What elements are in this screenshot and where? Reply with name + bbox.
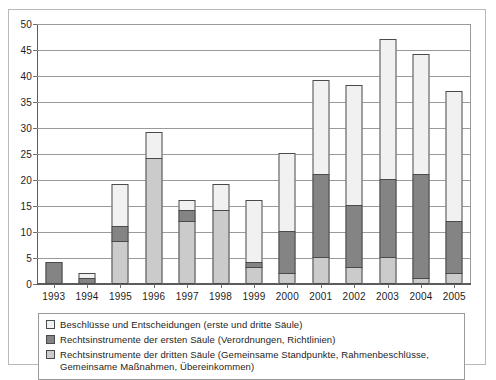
y-tick-label-10: 10 bbox=[20, 227, 32, 238]
bar-segment-first_pillar[interactable] bbox=[312, 174, 329, 258]
x-tick-mark bbox=[54, 284, 55, 288]
legend-item[interactable]: Rechtsinstrumente der dritten Säule (Gem… bbox=[46, 349, 457, 373]
legend-swatch-icon bbox=[46, 350, 55, 359]
bar-group[interactable]: 1998 bbox=[204, 24, 237, 284]
bar-segment-first_pillar[interactable] bbox=[346, 205, 363, 268]
x-tick-mark bbox=[187, 284, 188, 288]
x-tick-mark bbox=[120, 284, 121, 288]
bar-series-container: 1993199419951996199719981999200020012002… bbox=[37, 24, 471, 284]
chart-legend: Beschlüsse und Entscheidungen (erste und… bbox=[38, 313, 465, 380]
bar-segment-decisions[interactable] bbox=[79, 273, 96, 279]
x-tick-mark bbox=[154, 284, 155, 288]
bar-segment-third_pillar[interactable] bbox=[346, 267, 363, 284]
bar-segment-third_pillar[interactable] bbox=[112, 241, 129, 284]
x-tick-label-2002: 2002 bbox=[343, 291, 366, 302]
bar-stack[interactable] bbox=[145, 24, 162, 284]
bar-segment-decisions[interactable] bbox=[446, 91, 463, 222]
x-tick-label-1999: 1999 bbox=[242, 291, 265, 302]
x-tick-label-2000: 2000 bbox=[276, 291, 299, 302]
bar-segment-first_pillar[interactable] bbox=[379, 179, 396, 258]
chart-figure: 05101520253035404550 1993199419951996199… bbox=[8, 9, 486, 365]
bar-segment-third_pillar[interactable] bbox=[212, 210, 229, 284]
bar-stack[interactable] bbox=[45, 24, 62, 284]
legend-label: Rechtsinstrumente der ersten Säule (Vero… bbox=[60, 334, 336, 346]
x-tick-label-1995: 1995 bbox=[109, 291, 132, 302]
bar-segment-third_pillar[interactable] bbox=[179, 221, 196, 284]
y-tick-label-40: 40 bbox=[20, 71, 32, 82]
x-tick-mark bbox=[287, 284, 288, 288]
y-tick-label-25: 25 bbox=[20, 149, 32, 160]
bar-segment-decisions[interactable] bbox=[379, 39, 396, 180]
bar-segment-third_pillar[interactable] bbox=[312, 257, 329, 284]
bar-group[interactable]: 2002 bbox=[337, 24, 370, 284]
y-tick-label-5: 5 bbox=[26, 253, 32, 264]
x-tick-mark bbox=[454, 284, 455, 288]
bar-stack[interactable] bbox=[379, 24, 396, 284]
bar-segment-first_pillar[interactable] bbox=[45, 262, 62, 284]
x-tick-label-2005: 2005 bbox=[443, 291, 466, 302]
bar-segment-first_pillar[interactable] bbox=[112, 226, 129, 243]
bar-segment-first_pillar[interactable] bbox=[179, 210, 196, 221]
x-tick-mark bbox=[321, 284, 322, 288]
x-tick-label-2003: 2003 bbox=[376, 291, 399, 302]
bar-group[interactable]: 2000 bbox=[271, 24, 304, 284]
bar-segment-decisions[interactable] bbox=[179, 200, 196, 211]
bar-stack[interactable] bbox=[279, 24, 296, 284]
bar-group[interactable]: 2001 bbox=[304, 24, 337, 284]
x-tick-label-1997: 1997 bbox=[176, 291, 199, 302]
bar-stack[interactable] bbox=[212, 24, 229, 284]
bar-segment-decisions[interactable] bbox=[346, 85, 363, 206]
bar-stack[interactable] bbox=[79, 24, 96, 284]
x-tick-label-1994: 1994 bbox=[76, 291, 99, 302]
bar-segment-third_pillar[interactable] bbox=[279, 273, 296, 284]
bar-segment-first_pillar[interactable] bbox=[412, 174, 429, 279]
legend-swatch-icon bbox=[46, 320, 55, 329]
bar-group[interactable]: 2004 bbox=[404, 24, 437, 284]
bar-stack[interactable] bbox=[446, 24, 463, 284]
bar-segment-decisions[interactable] bbox=[112, 184, 129, 227]
bar-segment-third_pillar[interactable] bbox=[145, 158, 162, 284]
legend-item[interactable]: Beschlüsse und Entscheidungen (erste und… bbox=[46, 319, 457, 331]
x-tick-mark bbox=[388, 284, 389, 288]
bar-stack[interactable] bbox=[346, 24, 363, 284]
bar-segment-decisions[interactable] bbox=[412, 54, 429, 175]
bar-segment-first_pillar[interactable] bbox=[446, 221, 463, 274]
x-tick-label-1996: 1996 bbox=[142, 291, 165, 302]
bar-group[interactable]: 1996 bbox=[137, 24, 170, 284]
y-tick-label-45: 45 bbox=[20, 45, 32, 56]
bar-group[interactable]: 1999 bbox=[237, 24, 270, 284]
legend-item[interactable]: Rechtsinstrumente der ersten Säule (Vero… bbox=[46, 334, 457, 346]
plot-area: 05101520253035404550 1993199419951996199… bbox=[37, 24, 471, 284]
bar-segment-decisions[interactable] bbox=[245, 200, 262, 263]
bar-segment-third_pillar[interactable] bbox=[379, 257, 396, 284]
bar-stack[interactable] bbox=[412, 24, 429, 284]
bar-stack[interactable] bbox=[179, 24, 196, 284]
bar-group[interactable]: 1994 bbox=[70, 24, 103, 284]
bar-group[interactable]: 2005 bbox=[438, 24, 471, 284]
bar-segment-decisions[interactable] bbox=[312, 80, 329, 175]
x-tick-label-1993: 1993 bbox=[42, 291, 65, 302]
legend-swatch-icon bbox=[46, 335, 55, 344]
x-tick-mark bbox=[421, 284, 422, 288]
bar-stack[interactable] bbox=[245, 24, 262, 284]
bar-group[interactable]: 1993 bbox=[37, 24, 70, 284]
bar-group[interactable]: 1997 bbox=[171, 24, 204, 284]
bar-segment-first_pillar[interactable] bbox=[279, 231, 296, 274]
bar-segment-third_pillar[interactable] bbox=[245, 267, 262, 284]
legend-label: Rechtsinstrumente der dritten Säule (Gem… bbox=[60, 349, 457, 373]
x-tick-mark bbox=[87, 284, 88, 288]
bar-stack[interactable] bbox=[312, 24, 329, 284]
y-tick-label-35: 35 bbox=[20, 97, 32, 108]
bar-segment-decisions[interactable] bbox=[145, 132, 162, 159]
bar-stack[interactable] bbox=[112, 24, 129, 284]
y-tick-label-0: 0 bbox=[26, 279, 32, 290]
bar-segment-decisions[interactable] bbox=[279, 153, 296, 232]
bar-segment-third_pillar[interactable] bbox=[446, 273, 463, 284]
bar-group[interactable]: 2003 bbox=[371, 24, 404, 284]
y-tick-label-15: 15 bbox=[20, 201, 32, 212]
legend-label: Beschlüsse und Entscheidungen (erste und… bbox=[60, 319, 303, 331]
x-tick-mark bbox=[254, 284, 255, 288]
bar-group[interactable]: 1995 bbox=[104, 24, 137, 284]
bar-segment-decisions[interactable] bbox=[212, 184, 229, 211]
x-tick-mark bbox=[221, 284, 222, 288]
